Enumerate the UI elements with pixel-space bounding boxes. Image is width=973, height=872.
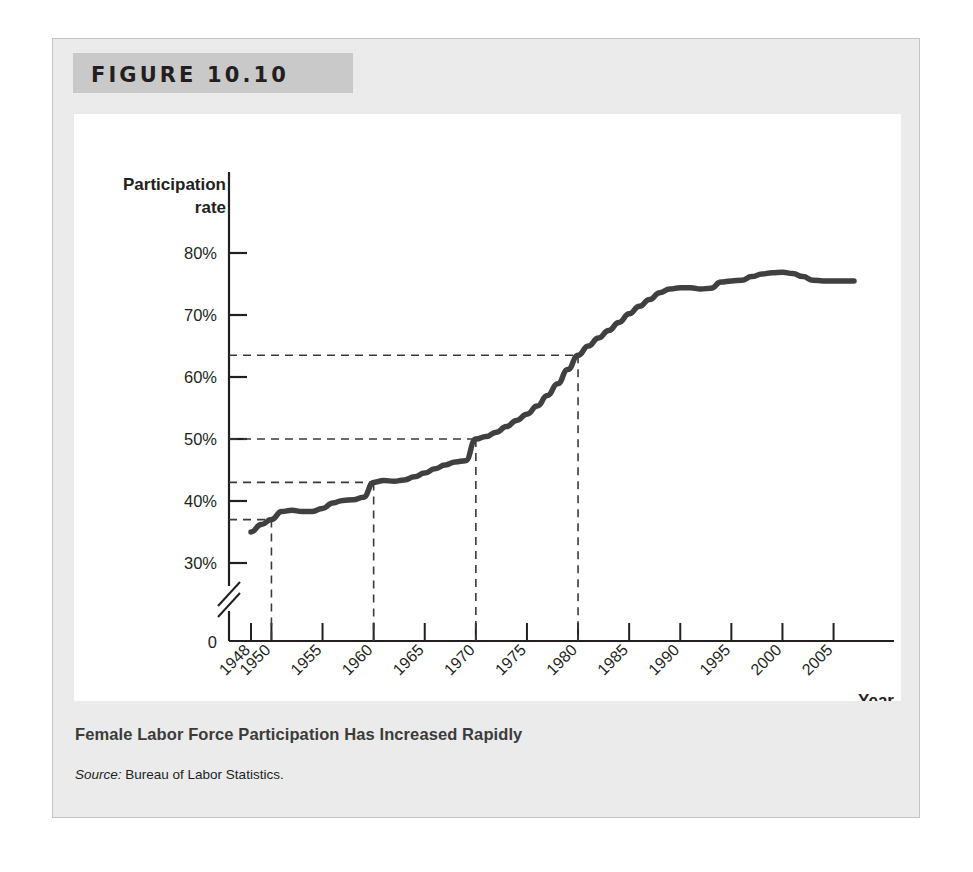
y-axis-ticks: 80% 70% 60% 50% 40% 30% 0 xyxy=(184,244,247,651)
y-tick-label-80: 80% xyxy=(184,244,217,262)
x-tick-label-1995: 1995 xyxy=(696,641,733,678)
figure-source-line: Source: Bureau of Labor Statistics. xyxy=(75,767,284,782)
source-text: Bureau of Labor Statistics. xyxy=(125,767,283,782)
line-chart-svg: Participation rate 80% 70% xyxy=(74,114,901,701)
y-axis-origin-label: 0 xyxy=(208,633,217,651)
y-tick-label-60: 60% xyxy=(184,368,217,386)
x-tick-label-1970: 1970 xyxy=(441,641,478,678)
x-axis-title: Year xyxy=(858,691,894,701)
axis-lines xyxy=(229,172,894,641)
figure-caption-title: Female Labor Force Participation Has Inc… xyxy=(75,725,522,744)
x-tick-label-2005: 2005 xyxy=(798,641,835,678)
x-tick-label-1965: 1965 xyxy=(390,641,427,678)
y-tick-label-50: 50% xyxy=(184,430,217,448)
x-tick-label-1985: 1985 xyxy=(594,641,631,678)
x-tick-label-1955: 1955 xyxy=(287,641,324,678)
chart-plot-panel: Participation rate 80% 70% xyxy=(74,114,901,701)
x-tick-label-1980: 1980 xyxy=(543,641,580,678)
y-axis-title-line1: Participation xyxy=(123,175,226,194)
x-tick-label-1975: 1975 xyxy=(492,641,529,678)
y-tick-label-30: 30% xyxy=(184,554,217,572)
x-tick-label-1990: 1990 xyxy=(645,641,682,678)
x-tick-label-2000: 2000 xyxy=(747,641,784,678)
participation-rate-line xyxy=(251,272,854,532)
x-axis-ticks: 1948195019551960196519701975198019851990… xyxy=(216,623,836,678)
y-tick-label-70: 70% xyxy=(184,306,217,324)
y-tick-label-40: 40% xyxy=(184,492,217,510)
figure-number-banner: FIGURE 10.10 xyxy=(73,53,353,93)
x-tick-label-1960: 1960 xyxy=(339,641,376,678)
y-axis-title-line2: rate xyxy=(195,198,226,217)
figure-frame: FIGURE 10.10 Participation rate xyxy=(52,38,920,818)
source-prefix: Source: xyxy=(75,767,122,782)
figure-number-label: FIGURE 10.10 xyxy=(91,63,289,87)
reference-lines xyxy=(229,355,578,641)
